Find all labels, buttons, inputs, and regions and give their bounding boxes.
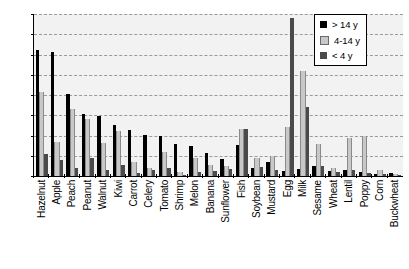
x-label-cell: Hazelnut <box>33 178 48 266</box>
x-tick-mark <box>202 174 203 178</box>
x-tick-mark <box>325 174 326 178</box>
x-tick-label: Poppy <box>358 180 369 207</box>
x-tick-mark <box>110 174 111 178</box>
x-label-cell: Wheat <box>325 178 340 266</box>
bar <box>106 170 109 176</box>
legend-swatch-icon <box>320 21 327 28</box>
bar-group <box>172 14 187 176</box>
x-tick-mark <box>79 174 80 178</box>
x-label-cell: Milk <box>294 178 309 266</box>
bar-group <box>142 14 157 176</box>
x-tick-mark <box>218 174 219 178</box>
legend-label: 4-14 y <box>334 35 360 46</box>
bar <box>244 129 247 176</box>
x-tick-label: Melon <box>189 180 200 206</box>
x-tick-mark <box>294 174 295 178</box>
x-tick-label: Sunflower <box>220 180 231 223</box>
bar <box>90 158 93 176</box>
x-tick-mark <box>233 174 234 178</box>
bar-group <box>157 14 172 176</box>
x-label-cell: Celery <box>141 178 156 266</box>
x-label-cell: Shrimp <box>171 178 186 266</box>
bar <box>260 167 263 176</box>
bar-group <box>265 14 280 176</box>
bar-group <box>295 14 310 176</box>
bar-group <box>234 14 249 176</box>
bar <box>213 171 216 176</box>
x-tick-label: Lentil <box>343 180 354 203</box>
bar-group <box>111 14 126 176</box>
x-tick-mark <box>48 174 49 178</box>
bar <box>121 165 124 176</box>
bar <box>367 173 370 176</box>
x-tick-label: Sesame <box>312 180 323 216</box>
x-label-cell: Lentil <box>341 178 356 266</box>
bar <box>290 18 293 176</box>
x-label-cell: Sunflower <box>218 178 233 266</box>
x-tick-label: Tomato <box>158 180 169 212</box>
bar-group <box>65 14 80 176</box>
legend-item: < 4 y <box>320 50 360 61</box>
bar <box>362 136 367 176</box>
x-tick-label: Hazelnut <box>35 180 46 218</box>
bar <box>152 170 155 176</box>
x-tick-mark <box>279 174 280 178</box>
bar-group <box>126 14 141 176</box>
x-tick-label: Corn <box>373 180 384 201</box>
x-tick-label: Milk <box>297 180 308 197</box>
bar-group <box>34 14 49 176</box>
legend: > 14 y4-14 y< 4 y <box>314 14 367 66</box>
bar <box>75 168 78 176</box>
x-label-cell: Tomato <box>156 178 171 266</box>
x-tick-mark <box>371 174 372 178</box>
bar <box>321 166 324 176</box>
bar <box>306 107 309 176</box>
bar <box>398 175 401 176</box>
x-tick-mark <box>356 174 357 178</box>
bar-group <box>219 14 234 176</box>
bar <box>167 168 170 176</box>
x-axis-labels: HazelnutApplePeachPeanutWalnutKiwiCarrot… <box>33 178 402 266</box>
legend-label: < 4 y <box>332 50 352 61</box>
bar-chart: HazelnutApplePeachPeanutWalnutKiwiCarrot… <box>0 0 409 269</box>
bar <box>275 170 278 176</box>
x-tick-label: Walnut <box>97 180 108 210</box>
legend-item: 4-14 y <box>320 35 360 46</box>
x-label-cell: Apple <box>48 178 63 266</box>
x-tick-mark <box>125 174 126 178</box>
x-label-cell: Peanut <box>79 178 94 266</box>
x-tick-mark <box>95 174 96 178</box>
bar-group <box>372 14 387 176</box>
x-tick-label: Apple <box>51 180 62 205</box>
x-tick-label: Wheat <box>327 180 338 208</box>
x-tick-mark <box>341 174 342 178</box>
x-label-cell: Mustard <box>264 178 279 266</box>
bar <box>137 173 140 176</box>
bar <box>336 172 339 176</box>
x-label-cell: Sesame <box>310 178 325 266</box>
x-label-cell: Soybean <box>248 178 263 266</box>
x-label-cell: Fish <box>233 178 248 266</box>
bar-group <box>203 14 218 176</box>
bar <box>44 154 47 176</box>
bar-group <box>80 14 95 176</box>
bar-group <box>388 14 403 176</box>
legend-label: > 14 y <box>332 19 358 30</box>
x-tick-label: Kiwi <box>112 180 123 198</box>
x-tick-label: Mustard <box>266 180 277 215</box>
x-label-cell: Poppy <box>356 178 371 266</box>
x-tick-label: Fish <box>235 180 246 198</box>
legend-item: > 14 y <box>320 19 360 30</box>
bar-group <box>188 14 203 176</box>
x-tick-mark <box>156 174 157 178</box>
x-tick-label: Soybean <box>250 180 261 218</box>
x-tick-mark <box>171 174 172 178</box>
x-tick-mark <box>64 174 65 178</box>
bar <box>60 160 63 176</box>
x-tick-label: Buckwheat <box>389 180 400 227</box>
legend-swatch-icon <box>320 36 329 45</box>
bar <box>229 169 232 176</box>
x-label-cell: Walnut <box>95 178 110 266</box>
x-tick-label: Shrimp <box>174 180 185 210</box>
x-label-cell: Peach <box>64 178 79 266</box>
